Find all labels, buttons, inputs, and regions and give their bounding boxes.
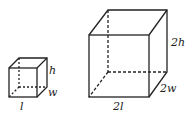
large-width-label: 2w: [159, 82, 177, 95]
small-box: [9, 58, 47, 97]
small-height-label: h: [49, 64, 56, 77]
small-width-label: w: [48, 86, 58, 99]
large-length-label: 2l: [112, 100, 124, 113]
large-height-label: 2h: [170, 36, 185, 49]
boxes-diagram: h w l 2h 2w 2l: [0, 0, 194, 113]
small-length-label: l: [20, 100, 24, 113]
large-box: [89, 10, 167, 97]
